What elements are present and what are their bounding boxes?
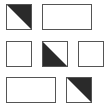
rectangle-empty-r3c1 xyxy=(6,77,56,103)
square-upper-right-triangle-r1c1 xyxy=(6,4,32,30)
lower-left-triangle-icon xyxy=(43,42,67,66)
square-empty-r2c1 xyxy=(6,41,32,67)
square-empty-r2c3 xyxy=(78,41,104,67)
upper-right-triangle-icon xyxy=(67,78,91,102)
rectangle-empty-r1c2 xyxy=(42,4,92,30)
square-lower-left-triangle-r2c2 xyxy=(42,41,68,67)
square-upper-right-triangle-r3c2 xyxy=(66,77,92,103)
upper-right-triangle-icon xyxy=(7,5,31,29)
